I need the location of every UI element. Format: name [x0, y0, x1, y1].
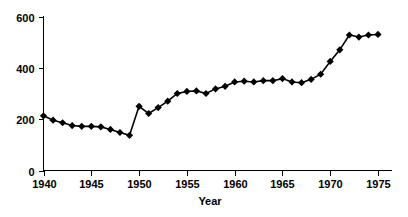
data-point-marker: [269, 77, 276, 84]
data-point-marker: [231, 78, 238, 85]
x-tick-label: 1955: [175, 178, 199, 190]
line-chart-plot: 0200400600 19401945195019551960196519701…: [0, 0, 408, 217]
data-point-marker: [97, 123, 104, 130]
series-markers-1: [40, 31, 382, 139]
x-tick-label: 1945: [79, 178, 103, 190]
data-point-marker: [193, 87, 200, 94]
x-tick-label: 1970: [318, 178, 342, 190]
data-point-marker: [107, 126, 114, 133]
y-tick-label: 600: [16, 12, 34, 24]
data-point-marker: [241, 78, 248, 85]
data-point-marker: [183, 88, 190, 95]
series-line-1: [44, 34, 379, 135]
y-axis-group: 0200400600: [16, 12, 43, 178]
data-point-marker: [49, 117, 56, 124]
y-tick-label: 0: [28, 166, 34, 178]
data-point-marker: [59, 119, 66, 126]
data-point-marker: [365, 31, 372, 38]
data-point-marker: [212, 85, 219, 92]
data-point-marker: [279, 75, 286, 82]
y-tick-label: 200: [16, 114, 34, 126]
chart-container: 0200400600 19401945195019551960196519701…: [0, 0, 408, 217]
data-point-marker: [260, 77, 267, 84]
x-tick-label: 1965: [270, 178, 294, 190]
data-point-marker: [78, 123, 85, 130]
data-point-marker: [126, 132, 133, 139]
x-tick-label: 1975: [366, 178, 390, 190]
data-point-marker: [288, 78, 295, 85]
data-point-marker: [374, 31, 381, 38]
data-point-marker: [40, 112, 47, 119]
data-point-marker: [355, 33, 362, 40]
x-tick-label: 1960: [223, 178, 247, 190]
data-point-marker: [116, 129, 123, 136]
data-series-group: [40, 31, 382, 139]
x-tick-labels: 19401945195019551960196519701975: [32, 178, 390, 190]
y-tick-labels: 0200400600: [16, 12, 34, 178]
data-point-marker: [221, 83, 228, 90]
x-tick-label: 1950: [127, 178, 151, 190]
data-point-marker: [308, 76, 315, 83]
data-point-marker: [69, 122, 76, 129]
x-axis-group: 19401945195019551960196519701975: [32, 171, 392, 190]
data-point-marker: [202, 90, 209, 97]
data-point-marker: [298, 79, 305, 86]
x-axis-title: Year: [198, 195, 222, 207]
y-tick-label: 400: [16, 63, 34, 75]
data-point-marker: [250, 78, 257, 85]
data-point-marker: [88, 123, 95, 130]
x-tick-label: 1940: [32, 178, 56, 190]
